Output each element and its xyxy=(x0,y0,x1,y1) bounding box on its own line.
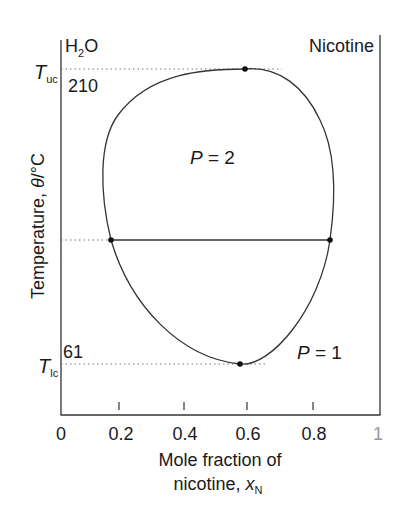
x-tick-labels: 0 0.2 0.4 0.6 0.8 1 xyxy=(56,424,383,444)
tuc-value: 210 xyxy=(68,76,98,96)
svg-text:0.2: 0.2 xyxy=(108,424,133,444)
region-label-two-phase: P = 2 xyxy=(190,147,235,168)
phase-diagram: H2O Nicotine Tuc 210 Tlc 61 P = 2 P = 1 … xyxy=(0,0,405,510)
lower-critical-point xyxy=(237,361,243,367)
x-axis-title-line2: nicotine, xN xyxy=(174,474,263,496)
tie-line-right-point xyxy=(327,237,333,243)
x-axis-title-line1: Mole fraction of xyxy=(158,450,282,470)
region-label-one-phase: P = 1 xyxy=(297,342,342,363)
coexistence-curve xyxy=(103,69,334,364)
left-component-label: H2O xyxy=(65,36,98,59)
right-component-label: Nicotine xyxy=(309,36,374,56)
x-ticks xyxy=(119,402,313,410)
upper-critical-point xyxy=(242,66,248,72)
svg-text:0.8: 0.8 xyxy=(301,424,326,444)
tlc-value: 61 xyxy=(63,342,83,362)
tuc-label: Tuc xyxy=(34,61,58,85)
svg-text:0: 0 xyxy=(56,424,66,444)
svg-text:1: 1 xyxy=(373,424,383,444)
tie-line-left-point xyxy=(108,237,114,243)
svg-text:0.4: 0.4 xyxy=(172,424,197,444)
svg-text:0.6: 0.6 xyxy=(235,424,260,444)
dotted-guides xyxy=(61,69,282,364)
tlc-label: Tlc xyxy=(38,355,59,379)
y-axis-title: Temperature, θ/°C xyxy=(28,153,48,299)
